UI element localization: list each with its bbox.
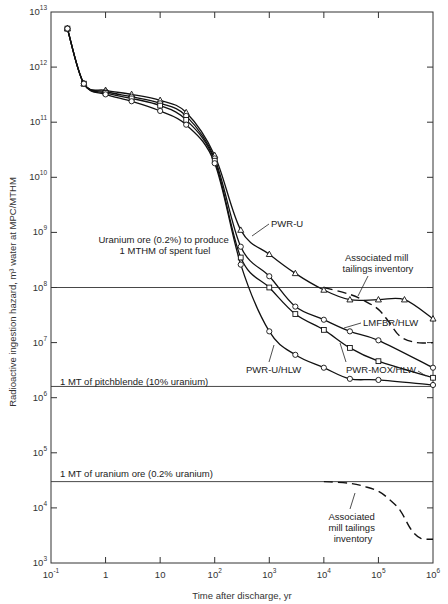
circle-marker-icon	[129, 99, 134, 104]
square-marker-icon	[293, 312, 298, 317]
x-tick-label: 104	[317, 567, 332, 580]
square-marker-icon	[184, 118, 189, 123]
x-axis-title: Time after discharge, yr	[192, 590, 291, 601]
label-tailings-lower-line1: Associated	[328, 511, 374, 522]
label-pwr-u: PWR-U	[271, 218, 303, 229]
circle-marker-icon	[430, 382, 435, 387]
circle-marker-icon	[293, 352, 298, 357]
circle-marker-icon	[81, 81, 86, 86]
y-tick-label: 107	[33, 335, 48, 348]
circle-marker-icon	[347, 329, 352, 334]
circle-marker-icon	[376, 377, 381, 382]
arrow-tailings-upper	[358, 276, 368, 296]
circle-marker-icon	[321, 365, 326, 370]
x-axis-ticks: 10-1110102103104105106	[43, 12, 441, 580]
y-tick-label: 105	[33, 445, 48, 458]
circle-marker-icon	[267, 329, 272, 334]
y-tick-label: 104	[33, 500, 48, 513]
x-tick-label: 105	[371, 567, 386, 580]
label-pwr-u-hlw: PWR-U/HLW	[246, 364, 301, 375]
label-tailings-lower-line3: inventory	[334, 533, 373, 544]
circle-marker-icon	[347, 376, 352, 381]
x-tick-label: 103	[262, 567, 277, 580]
y-tick-label: 109	[33, 224, 48, 237]
data-series	[67, 29, 433, 540]
circle-marker-icon	[158, 108, 163, 113]
ref-label-pitchblende: 1 MT of pitchblende (10% uranium)	[60, 376, 208, 387]
circle-marker-icon	[321, 317, 326, 322]
ref-label-ore-line2: 1 MTHM of spent fuel	[120, 245, 211, 256]
arrow-lmfbr-hlw	[344, 323, 361, 328]
label-tailings-upper: Associated mill tailings inventory	[343, 252, 414, 274]
circle-marker-icon	[238, 244, 243, 249]
y-tick-label: 103	[33, 555, 48, 568]
series-line	[67, 29, 433, 319]
label-lmfbr-hlw: LMFBR/HLW	[363, 317, 418, 328]
label-tailings-lower: Associated mill tailings inventory	[328, 511, 377, 544]
circle-marker-icon	[293, 304, 298, 309]
square-marker-icon	[267, 285, 272, 290]
triangle-marker-icon	[266, 251, 272, 256]
square-marker-icon	[321, 328, 326, 333]
y-axis-title: Radioactive ingestion hazard, m³ water a…	[7, 177, 18, 407]
x-tick-label: 10-1	[43, 567, 60, 580]
x-tick-label: 10	[155, 569, 166, 580]
annotations: Uranium ore (0.2%) to produce 1 MTHM of …	[7, 177, 426, 601]
arrow-pwr-u-hlw	[269, 345, 274, 362]
circle-marker-icon	[238, 262, 243, 267]
square-marker-icon	[238, 255, 243, 260]
label-tailings-upper-line2: tailings inventory	[343, 263, 414, 274]
circle-marker-icon	[184, 122, 189, 127]
x-tick-label: 1	[103, 569, 108, 580]
label-tailings-lower-line2: mill tailings	[328, 522, 375, 533]
triangle-marker-icon	[238, 227, 244, 232]
arrow-tailings-lower	[350, 493, 355, 509]
y-tick-label: 106	[33, 390, 48, 403]
y-tick-label: 1010	[29, 169, 47, 182]
x-tick-label: 102	[208, 567, 223, 580]
circle-marker-icon	[103, 92, 108, 97]
circle-marker-icon	[267, 274, 272, 279]
label-pwr-mox-hlw: PWR-MOX/HLW	[346, 364, 416, 375]
circle-marker-icon	[65, 26, 70, 31]
triangle-marker-icon	[430, 316, 436, 321]
y-tick-label: 1011	[30, 114, 48, 127]
circle-marker-icon	[430, 365, 435, 370]
arrow-pwr-u	[252, 224, 269, 236]
square-marker-icon	[347, 346, 352, 351]
circle-marker-icon	[376, 338, 381, 343]
circle-marker-icon	[212, 161, 217, 166]
square-marker-icon	[158, 103, 163, 108]
y-tick-label: 1013	[29, 4, 47, 17]
square-marker-icon	[431, 375, 436, 380]
ref-label-uranium-ore: 1 MT of uranium ore (0.2% uranium)	[60, 468, 213, 479]
y-tick-label: 1012	[29, 59, 47, 72]
ref-label-ore-line1: Uranium ore (0.2%) to produce	[98, 234, 228, 245]
label-tailings-upper-line1: Associated mill	[345, 252, 408, 263]
square-marker-icon	[376, 359, 381, 364]
series-line	[67, 29, 433, 385]
chart: 1031041051061071081091010101110121013 10…	[0, 0, 448, 604]
data-markers	[64, 25, 436, 387]
triangle-marker-icon	[292, 270, 298, 275]
y-tick-label: 108	[33, 280, 48, 293]
ref-label-ore: Uranium ore (0.2%) to produce 1 MTHM of …	[98, 234, 231, 256]
x-tick-label: 106	[426, 567, 441, 580]
arrow-pwr-mox-hlw	[340, 343, 346, 362]
